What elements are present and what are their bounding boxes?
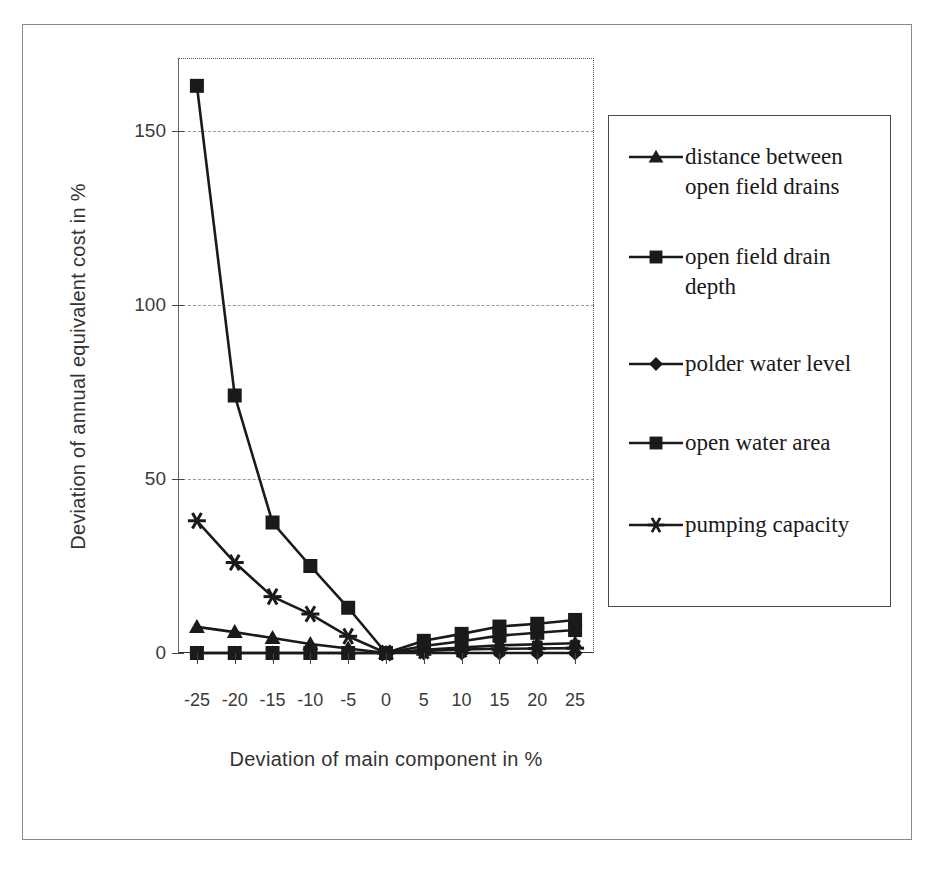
y-axis-title: Deviation of annual equivalent cost in % [67,107,90,627]
series-1 [190,79,582,660]
legend-label: polder water level [685,349,851,379]
legend-entry[interactable]: polder water level [627,349,879,379]
x-tick-label: 5 [419,690,429,711]
legend-label: open water area [685,428,831,458]
legend-marker-square-icon [627,244,685,270]
x-tick-mark [537,653,538,664]
x-tick-mark [197,653,198,664]
legend-entry[interactable]: open water area [627,428,879,458]
x-tick-label: 20 [527,690,547,711]
x-axis-title: Deviation of main component in % [178,748,594,771]
y-tick-label: 150 [134,120,166,142]
x-tick-mark [499,653,500,664]
x-tick-label: 10 [452,690,472,711]
x-tick-label: -25 [184,690,210,711]
chart-page: Deviation of annual equivalent cost in %… [0,0,936,879]
legend-marker-square-icon [627,430,685,456]
y-tick-mark [172,131,184,132]
legend-marker-diamond-icon [627,351,685,377]
y-tick-label: 100 [134,294,166,316]
legend-label: pumping capacity [685,510,849,540]
legend: distance between open field drainsopen f… [608,115,891,607]
x-tick-label: 25 [565,690,585,711]
legend-marker-triangle-icon [627,144,685,170]
plot-area [178,58,594,653]
x-tick-label: 0 [381,690,391,711]
x-tick-mark [348,653,349,664]
series-4 [188,513,584,661]
y-tick-mark [172,653,184,654]
y-tick-label: 50 [145,468,166,490]
legend-label: open field drain depth [685,242,831,302]
x-tick-mark [310,653,311,664]
x-tick-mark [424,653,425,664]
series-layer [178,58,594,653]
y-tick-label: 0 [155,642,166,664]
x-tick-label: -10 [297,690,323,711]
y-tick-mark [172,305,184,306]
legend-entry[interactable]: open field drain depth [627,242,879,302]
x-tick-mark [462,653,463,664]
legend-entry[interactable]: pumping capacity [627,510,879,540]
x-tick-label: -15 [260,690,286,711]
x-tick-mark [386,653,387,664]
x-tick-label: -20 [222,690,248,711]
legend-marker-asterisk-icon [627,512,685,538]
legend-label: distance between open field drains [685,142,843,202]
x-tick-label: 15 [489,690,509,711]
y-axis-tick-labels: 050100150 [118,58,166,653]
legend-entry[interactable]: distance between open field drains [627,142,879,202]
x-tick-mark [575,653,576,664]
x-tick-mark [273,653,274,664]
y-tick-mark [172,479,184,480]
x-tick-label: -5 [340,690,356,711]
x-axis-tick-labels: -25-20-15-10-50510152025 [178,690,594,716]
x-tick-mark [235,653,236,664]
